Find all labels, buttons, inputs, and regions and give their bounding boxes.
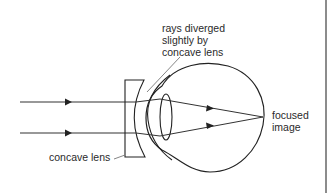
arrow-icon bbox=[65, 130, 72, 137]
label-rays-diverged: rays diverged slightly by concave lens bbox=[162, 22, 225, 58]
right-border-line bbox=[325, 0, 327, 193]
pointer-concave-lens bbox=[114, 155, 125, 159]
arrow-icon bbox=[65, 99, 72, 106]
concave-lens-shape bbox=[125, 80, 145, 157]
label-line: slightly by bbox=[162, 34, 225, 46]
refracted-rays bbox=[136, 99, 263, 136]
ray-top-refracted bbox=[136, 99, 263, 117]
arrow-icon bbox=[206, 105, 214, 112]
inner-arrowheads bbox=[206, 105, 214, 129]
label-line: rays diverged bbox=[162, 22, 225, 34]
label-line: focused bbox=[272, 109, 309, 121]
ray-bottom-refracted bbox=[136, 117, 263, 136]
pointer-rays-diverged bbox=[147, 57, 180, 92]
ray-arrowheads bbox=[65, 99, 72, 137]
label-focused-image: focused image bbox=[272, 109, 309, 133]
arrow-icon bbox=[206, 123, 214, 130]
incoming-rays bbox=[20, 102, 136, 133]
label-line: concave lens bbox=[162, 46, 225, 58]
label-concave-lens: concave lens bbox=[49, 151, 110, 163]
label-line: image bbox=[272, 121, 309, 133]
